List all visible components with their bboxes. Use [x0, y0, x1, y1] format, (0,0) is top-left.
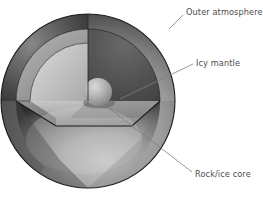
- cutaway-diagram: Outer atmosphere Icy mantle Rock/ice cor…: [0, 0, 263, 203]
- label-rock-ice-core: Rock/ice core: [195, 169, 251, 179]
- label-icy-mantle: Icy mantle: [196, 58, 240, 68]
- planetary-interior-cutaway-figure: Outer atmosphere Icy mantle Rock/ice cor…: [0, 0, 263, 203]
- planet-sphere: [1, 14, 175, 188]
- label-outer-atmosphere: Outer atmosphere: [186, 7, 263, 17]
- leader-line-outer-atmosphere: [169, 15, 183, 29]
